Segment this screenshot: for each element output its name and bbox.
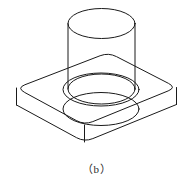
slab-bottom-face-outline — [17, 105, 177, 141]
slab-top-face-outline — [21, 54, 173, 123]
cylinder-bottom-ellipse — [68, 74, 135, 104]
cylinder-top-ellipse — [68, 9, 135, 39]
figure-panel: （b） — [0, 0, 193, 189]
figure-caption: （b） — [0, 160, 193, 176]
counterbore-upper-ellipse — [63, 73, 139, 106]
